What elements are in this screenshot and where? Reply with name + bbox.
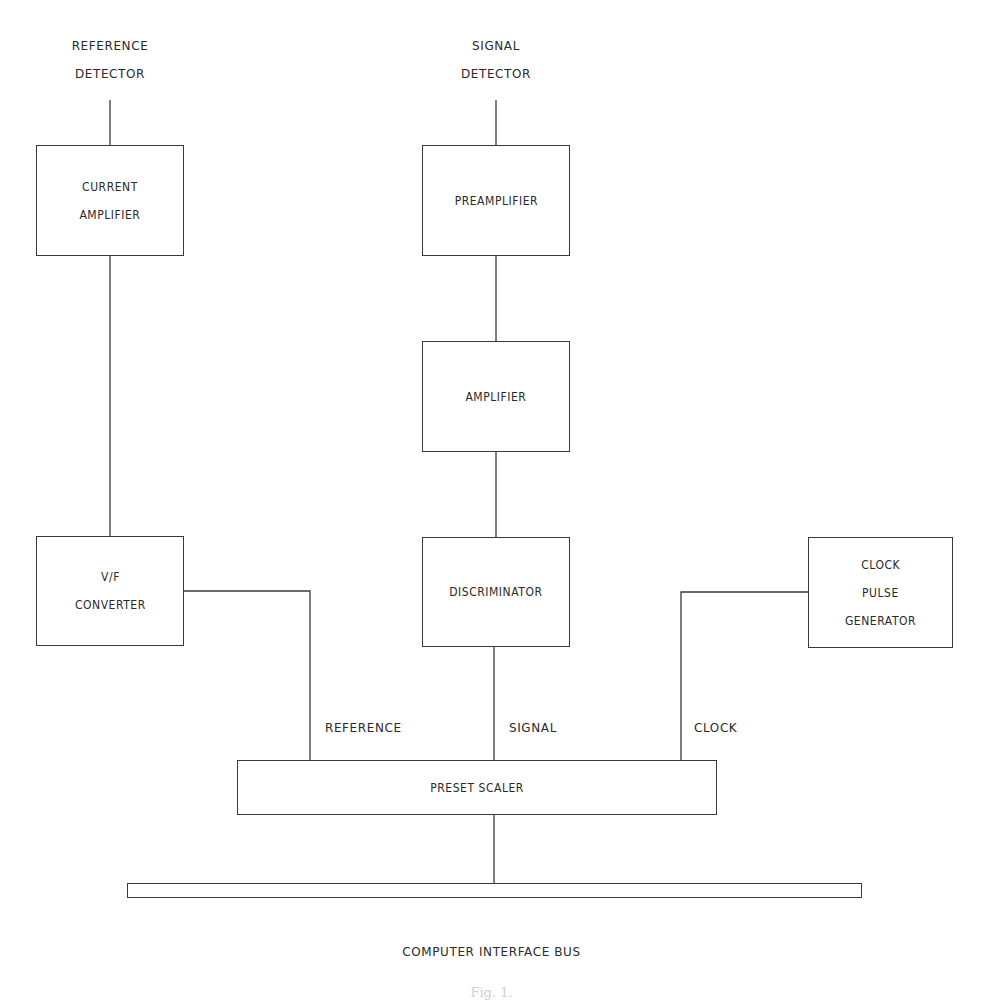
figure-caption: Fig. 1. xyxy=(0,985,983,1000)
current-amplifier-line-2: AMPLIFIER xyxy=(79,201,140,229)
preamplifier-block: PREAMPLIFIER xyxy=(422,145,570,256)
signal-line-label: SIGNAL xyxy=(509,721,557,735)
discriminator-block: DISCRIMINATOR xyxy=(422,537,570,647)
preset-scaler-block: PRESET SCALER xyxy=(237,760,717,815)
vf-converter-line-2: CONVERTER xyxy=(75,591,146,619)
signal-detector-line-1: SIGNAL xyxy=(436,32,556,60)
signal-detector-line-2: DETECTOR xyxy=(436,60,556,88)
amplifier-label: AMPLIFIER xyxy=(465,383,526,411)
preset-scaler-label: PRESET SCALER xyxy=(430,774,524,802)
clock-pulse-generator-line-1: CLOCK xyxy=(861,551,900,579)
vf-converter-block: V/F CONVERTER xyxy=(36,536,184,646)
discriminator-label: DISCRIMINATOR xyxy=(449,578,542,606)
clock-pulse-generator-block: CLOCK PULSE GENERATOR xyxy=(808,537,953,648)
clock-line-label: CLOCK xyxy=(694,721,737,735)
computer-interface-bus-bar xyxy=(127,883,862,898)
current-amplifier-block: CURRENT AMPLIFIER xyxy=(36,145,184,256)
reference-line-label: REFERENCE xyxy=(325,721,402,735)
preamplifier-label: PREAMPLIFIER xyxy=(454,187,537,215)
computer-interface-bus-label: COMPUTER INTERFACE BUS xyxy=(0,945,983,959)
signal-detector-label: SIGNAL DETECTOR xyxy=(436,32,556,88)
amplifier-block: AMPLIFIER xyxy=(422,341,570,452)
reference-detector-line-2: DETECTOR xyxy=(50,60,170,88)
reference-detector-line-1: REFERENCE xyxy=(50,32,170,60)
vf-converter-line-1: V/F xyxy=(101,563,120,591)
current-amplifier-line-1: CURRENT xyxy=(82,173,138,201)
wire-vf-to-scaler xyxy=(184,591,310,760)
clock-pulse-generator-line-3: GENERATOR xyxy=(845,607,916,635)
reference-detector-label: REFERENCE DETECTOR xyxy=(50,32,170,88)
clock-pulse-generator-line-2: PULSE xyxy=(862,579,899,607)
